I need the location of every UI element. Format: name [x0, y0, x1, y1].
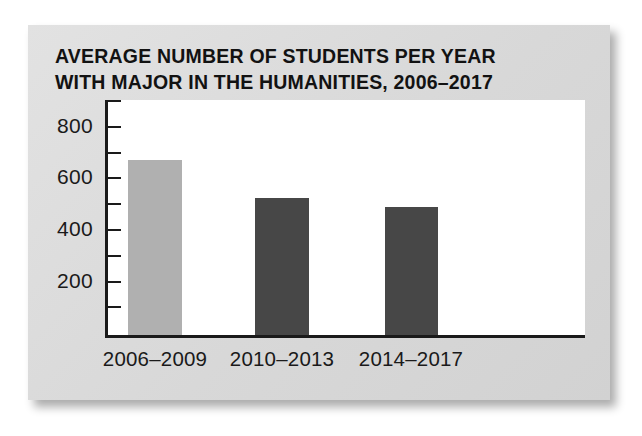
y-tick-600 [108, 177, 121, 179]
y-tick-300 [108, 255, 121, 257]
chart-title: AVERAGE NUMBER OF STUDENTS PER YEAR WITH… [55, 44, 585, 96]
x-tick-label-2014-2017: 2014–2017 [359, 347, 463, 371]
y-tick-800 [108, 126, 121, 128]
bar-2010-2013 [255, 198, 309, 335]
y-tick-label-600: 600 [33, 165, 93, 189]
y-tick-label-200: 200 [33, 269, 93, 293]
chart-card: AVERAGE NUMBER OF STUDENTS PER YEAR WITH… [28, 25, 610, 400]
x-tick-label-2006-2009: 2006–2009 [103, 347, 207, 371]
plot-area [105, 100, 585, 338]
y-tick-500 [108, 203, 121, 205]
y-tick-label-800: 800 [33, 114, 93, 138]
y-tick-900 [108, 100, 121, 102]
y-tick-100 [108, 306, 121, 308]
bar-2014-2017 [385, 207, 438, 335]
y-tick-200 [108, 281, 121, 283]
chart-figure: AVERAGE NUMBER OF STUDENTS PER YEAR WITH… [0, 0, 642, 436]
x-axis-line [105, 335, 585, 338]
bar-2006-2009 [128, 160, 182, 335]
y-tick-700 [108, 152, 121, 154]
x-tick-label-2010-2013: 2010–2013 [230, 347, 334, 371]
y-tick-400 [108, 229, 121, 231]
y-axis-line [105, 100, 108, 338]
y-axis-tick-labels: 800 600 400 200 [28, 100, 93, 338]
y-tick-label-400: 400 [33, 217, 93, 241]
